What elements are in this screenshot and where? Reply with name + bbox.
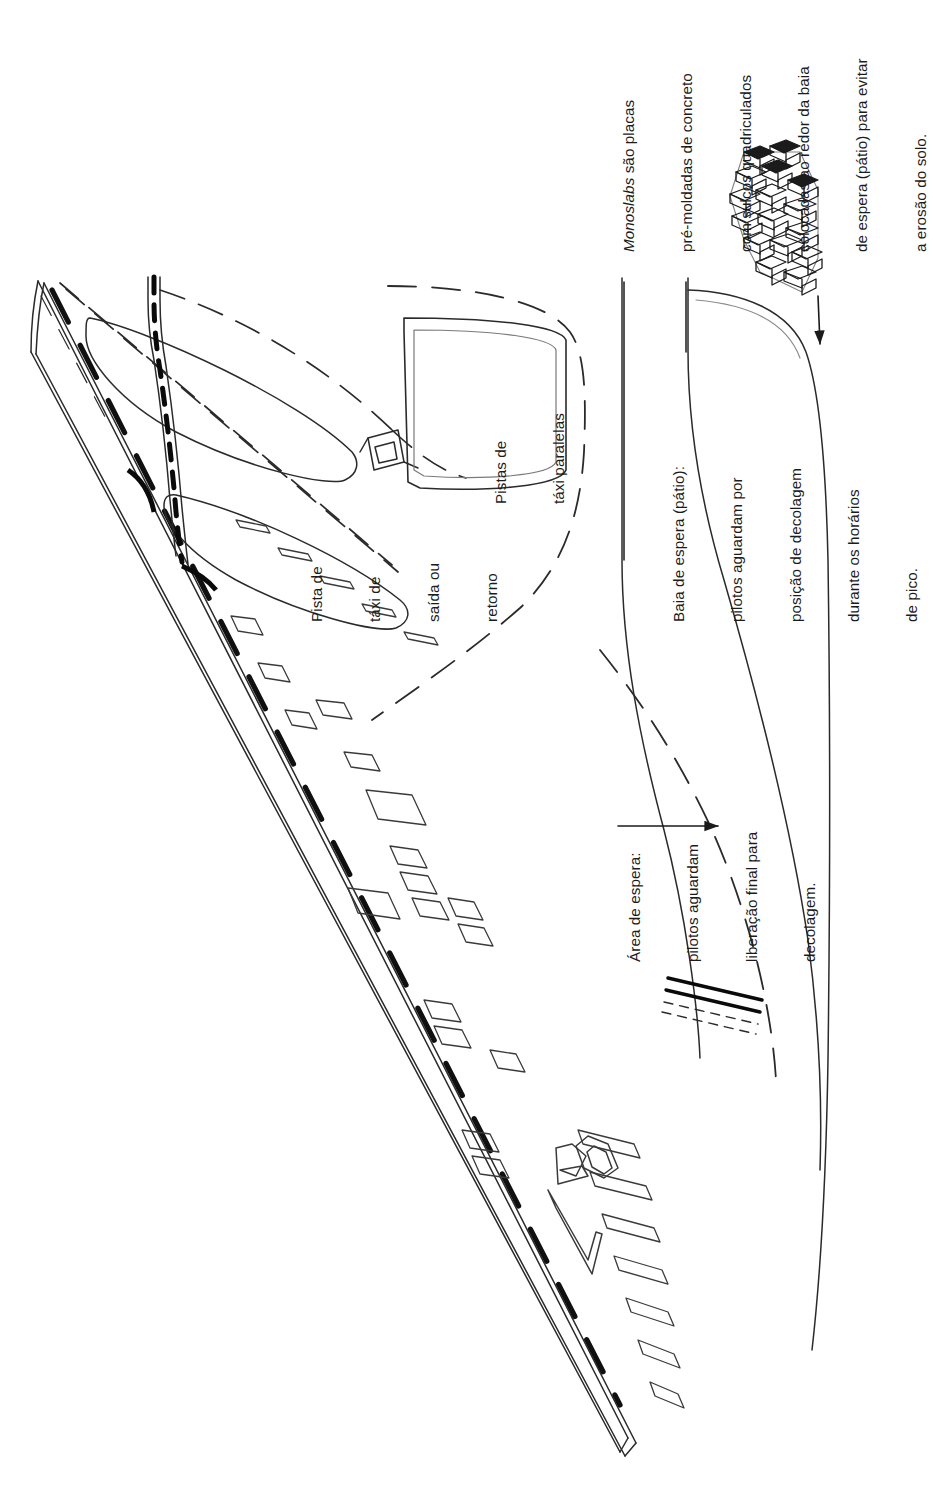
monoslab-arrow [818,296,820,344]
monoslabs-term: Monoslabs [620,178,637,252]
exit-taxiway-line-3: saída ou [424,522,443,622]
monoslabs-note-line-5: de espera (pátio) para evitar [852,0,871,252]
exit-taxiway-line-2: táxi de [365,522,384,622]
holding-area-line-1: Área de espera: [625,786,644,962]
monoslabs-note-line-3: com sulcos quadriculados [736,0,755,252]
parallel-taxiways-label: Pistas de táxi paralelas [452,362,608,504]
holding-bay-line-5: de pico. [902,412,921,622]
monoslabs-note: Monoslabs são placas pré-moldadas de con… [580,0,931,252]
runway-touchdown-markings [231,616,525,1178]
holding-area-line-4: decolagem. [800,786,819,962]
monoslabs-note-line-6: a erosão do solo. [911,0,930,252]
taxiway-junction-island [360,430,418,470]
holding-area-label: Área de espera: pilotos aguardam liberaç… [586,786,858,962]
holding-bay-line-3: posição de decolagem [786,412,805,622]
exit-taxiway-label: Pista de táxi de saída ou retorno [268,522,540,622]
parallel-taxiways-line-1: Pistas de [491,362,510,504]
monoslabs-note-line-2: pré-moldadas de concreto [677,0,696,252]
holding-bay-line-1: Baia de espera (pátio): [669,412,688,622]
monoslabs-note-line-1: Monoslabs são placas [619,0,638,252]
exit-taxiway-line-1: Pista de [307,522,326,622]
exit-taxiway-line-4: retorno [482,522,501,622]
holding-area-line-2: pilotos aguardam [683,786,702,962]
holding-bay-line-4: durante os horários [844,412,863,622]
runway-number-outline [548,1136,618,1274]
holding-area-line-3: liberação final para [742,786,761,962]
holding-bay-label: Baia de espera (pátio): pilotos aguardam… [630,412,931,622]
parallel-taxiways-line-2: táxi paralelas [549,362,568,504]
monoslabs-note-line-4: colocadas ao redor da baia [794,0,813,252]
runway-hold-position-markings [662,978,762,1034]
holding-bay-line-2: pilotos aguardam por [727,412,746,622]
